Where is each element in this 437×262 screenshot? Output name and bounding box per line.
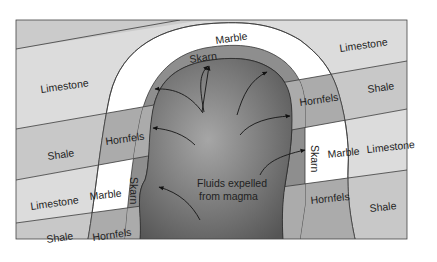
label-magma-caption-1: Fluids expelled bbox=[197, 177, 267, 189]
label-shale-left-lower: Shale bbox=[46, 229, 74, 245]
label-magma-caption-2: from magma bbox=[199, 190, 258, 202]
label-skarn-right: Skarn bbox=[309, 145, 321, 173]
label-skarn-left: Skarn bbox=[128, 177, 140, 205]
contact-metamorphism-diagram: Marble Limestone Limestone Skarn Hornfel… bbox=[0, 0, 437, 262]
